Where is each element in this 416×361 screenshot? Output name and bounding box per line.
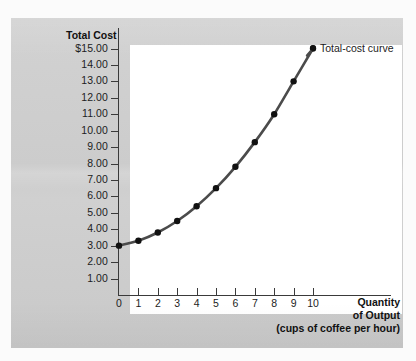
- data-point: [174, 218, 180, 224]
- data-point: [135, 238, 141, 244]
- data-point: [252, 139, 258, 145]
- data-point-group: [116, 45, 316, 249]
- legend-label: Total-cost curve: [320, 42, 394, 54]
- data-point: [155, 229, 161, 235]
- total-cost-curve-line: [119, 49, 313, 246]
- data-point: [271, 111, 277, 117]
- total-cost-curve-series: [0, 0, 416, 361]
- data-point: [232, 164, 238, 170]
- figure-page: $15.0014.0013.0012.0011.0010.009.008.007…: [0, 0, 416, 361]
- data-point: [213, 185, 219, 191]
- data-point: [193, 203, 199, 209]
- data-point: [290, 78, 296, 84]
- data-point: [116, 242, 122, 248]
